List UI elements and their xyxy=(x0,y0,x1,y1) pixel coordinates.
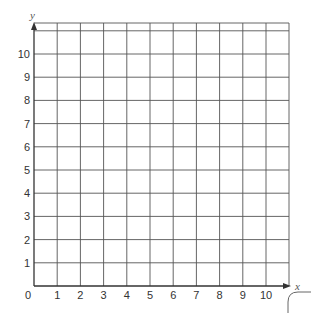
x-tick-labels: 012345678910 xyxy=(25,289,272,301)
x-tick-label: 1 xyxy=(54,289,60,301)
y-tick-labels: 12345678910 xyxy=(18,48,30,269)
x-tick-label: 8 xyxy=(217,289,223,301)
y-axis-label: y xyxy=(29,9,35,21)
y-tick-label: 1 xyxy=(24,257,30,269)
y-tick-label: 5 xyxy=(24,164,30,176)
x-tick-label: 6 xyxy=(170,289,176,301)
y-tick-label: 6 xyxy=(24,141,30,153)
coordinate-grid: 012345678910 12345678910 x y xyxy=(0,0,311,313)
decorative-corner-shape xyxy=(288,292,311,313)
x-tick-label: 9 xyxy=(240,289,246,301)
y-tick-label: 2 xyxy=(24,234,30,246)
x-axis-label: x xyxy=(294,280,300,292)
axes xyxy=(31,22,291,289)
x-tick-label: 2 xyxy=(77,289,83,301)
y-tick-label: 3 xyxy=(24,210,30,222)
x-tick-label: 5 xyxy=(147,289,153,301)
x-tick-label: 10 xyxy=(260,289,272,301)
y-tick-label: 8 xyxy=(24,94,30,106)
y-tick-label: 4 xyxy=(24,187,30,199)
x-axis-arrow-icon xyxy=(283,283,291,289)
x-tick-label: 0 xyxy=(25,289,31,301)
y-tick-label: 9 xyxy=(24,71,30,83)
x-tick-label: 3 xyxy=(101,289,107,301)
x-tick-label: 4 xyxy=(124,289,130,301)
y-tick-label: 10 xyxy=(18,48,30,60)
x-tick-label: 7 xyxy=(193,289,199,301)
grid-lines xyxy=(34,23,289,286)
y-tick-label: 7 xyxy=(24,118,30,130)
